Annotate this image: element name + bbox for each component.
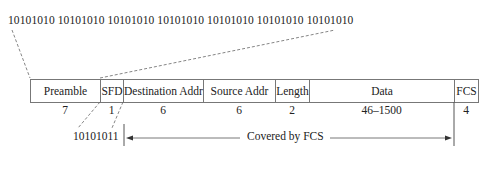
covered-by-fcs-label: Covered by FCS [243, 130, 328, 142]
dashed-line-sfd-right [112, 102, 123, 128]
arrow-left-icon [126, 136, 133, 141]
connector-lines [0, 0, 494, 171]
dashed-line-preamble-right [100, 30, 335, 78]
sfd-bit-pattern: 10101011 [73, 130, 119, 142]
arrow-right-icon [445, 136, 452, 141]
dashed-line-sfd-left [78, 102, 100, 128]
dashed-line-preamble-left [12, 30, 30, 78]
